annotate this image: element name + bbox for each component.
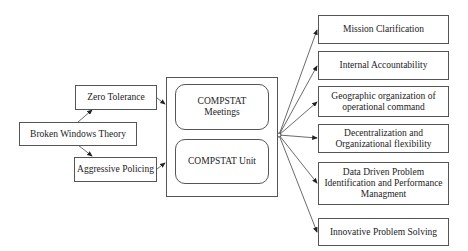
broken-windows-theory-box: Broken Windows Theory [19, 122, 137, 146]
outcome-label: Internal Accountability [340, 60, 428, 71]
aggressive-policing-label: Aggressive Policing [77, 164, 154, 175]
aggressive-policing-box: Aggressive Policing [74, 157, 157, 182]
compstat-unit-label: COMPSTAT Unit [188, 156, 256, 167]
mission-clarification-box: Mission Clarification [318, 15, 449, 44]
data-driven-problem-box: Data Driven Problem Identification and P… [318, 162, 449, 205]
outcome-label: Data Driven Problem Identification and P… [324, 167, 442, 200]
outcome-label: Mission Clarification [343, 24, 424, 35]
innovative-problem-solving-box: Innovative Problem Solving [318, 218, 449, 246]
zero-tolerance-box: Zero Tolerance [75, 85, 157, 110]
zero-tolerance-label: Zero Tolerance [87, 92, 144, 103]
broken-windows-theory-label: Broken Windows Theory [30, 129, 126, 140]
geographic-organization-box: Geographic organization of operational c… [318, 86, 449, 117]
internal-accountability-box: Internal Accountability [318, 51, 449, 80]
compstat-meetings-box: COMPSTAT Meetings [175, 84, 269, 130]
compstat-meetings-label: COMPSTAT Meetings [198, 96, 247, 118]
compstat-unit-box: COMPSTAT Unit [175, 139, 269, 184]
outcome-label: Decentralization and Organizational flex… [335, 128, 431, 150]
outcome-label: Geographic organization of operational c… [331, 91, 435, 113]
outcome-label: Innovative Problem Solving [330, 227, 437, 238]
decentralization-box: Decentralization and Organizational flex… [318, 124, 449, 153]
